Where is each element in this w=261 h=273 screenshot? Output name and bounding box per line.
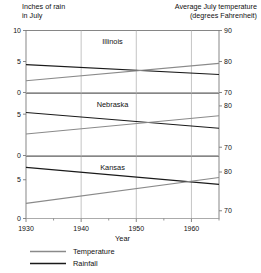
tick-label-x-1960: 1960 <box>184 225 200 232</box>
panel-label-nebraska: Nebraska <box>97 100 130 109</box>
panel-label-illinois: Illinois <box>102 37 123 46</box>
tick-label-left-illinois-5: 5 <box>17 58 21 65</box>
tick-label-x-1930: 1930 <box>18 225 34 232</box>
tick-label-right-kansas-80: 80 <box>224 168 232 175</box>
tick-label-left-illinois-10: 10 <box>13 27 21 34</box>
series-line-nebraska-rainfall <box>26 113 219 129</box>
x-axis-label: Year <box>115 234 130 243</box>
tick-label-right-kansas-70: 70 <box>224 207 232 214</box>
tick-label-right-nebraska-80: 80 <box>224 102 232 109</box>
tick-label-right-illinois-70: 70 <box>224 89 232 96</box>
tick-label-left-nebraska-5: 5 <box>17 111 21 118</box>
legend-label-rainfall: Rainfall <box>73 259 98 268</box>
tick-label-right-illinois-90: 90 <box>224 27 232 34</box>
series-line-nebraska-temperature <box>26 116 219 134</box>
tick-label-right-nebraska-70: 70 <box>224 144 232 151</box>
tick-label-left-nebraska-0: 0 <box>17 152 21 159</box>
tick-label-right-illinois-80: 80 <box>224 58 232 65</box>
chart-figure: Inches of rain in July Average July temp… <box>0 0 261 273</box>
tick-label-x-1940: 1940 <box>73 225 89 232</box>
tick-label-left-kansas-0: 0 <box>17 215 21 222</box>
tick-label-x-1950: 1950 <box>128 225 144 232</box>
tick-label-left-kansas-5: 5 <box>17 176 21 183</box>
chart-plot-area: 0510708090Illinois057080Nebraska057080Ka… <box>0 0 261 273</box>
legend-label-temperature: Temperature <box>73 247 115 256</box>
series-line-kansas-temperature <box>26 177 219 203</box>
tick-label-left-illinois-0: 0 <box>17 89 21 96</box>
panel-label-kansas: Kansas <box>100 163 125 172</box>
